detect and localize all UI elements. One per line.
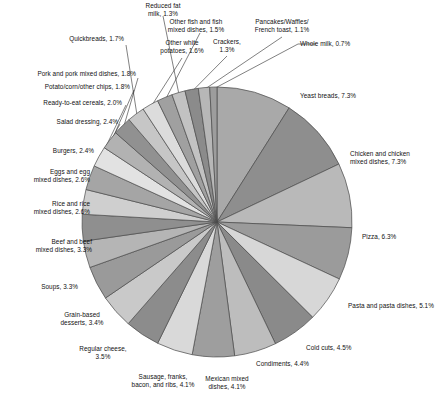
slice-label-eggs: Eggs and egg mixed dishes, 2.6% xyxy=(2,168,90,185)
pie-chart-svg xyxy=(0,0,436,394)
slice-label-chips: Potato/corn/other chips, 1.8% xyxy=(2,83,130,91)
slice-label-rte-cereals: Ready-to-eat cereals, 2.0% xyxy=(2,99,122,107)
pie-chart-figure: Reduced fat milk, 1.3% Other fish and fi… xyxy=(0,0,436,394)
slice-label-salad-dressing: Salad dressing, 2.4% xyxy=(2,118,118,126)
slice-label-rice: Rice and rice mixed dishes, 2.6% xyxy=(2,200,90,217)
slice-label-soups: Soups, 3.3% xyxy=(2,283,78,291)
slice-label-crackers: Crackers, 1.3% xyxy=(204,38,250,55)
slice-label-condiments: Condiments, 4.4% xyxy=(256,360,336,368)
slice-label-beef: Beef and beef mixed dishes, 3.3% xyxy=(2,238,92,255)
slice-label-yeast-breads: Yeast breads, 7.3% xyxy=(300,92,420,100)
slice-label-whole-milk: Whole milk, 0.7% xyxy=(300,40,400,48)
slice-label-pasta: Pasta and pasta dishes, 5.1% xyxy=(348,302,436,310)
slice-label-cold-cuts: Cold cuts, 4.5% xyxy=(306,344,390,352)
slice-label-grain-desserts: Grain-based desserts, 3.4% xyxy=(40,311,124,328)
slice-label-mexican: Mexican mixed dishes, 4.1% xyxy=(190,375,264,392)
slice-label-pork: Pork and pork mixed dishes, 1.8% xyxy=(2,70,136,78)
slice-label-pancakes: Pancakes/Waffles/ French toast, 1.1% xyxy=(236,18,328,35)
leader-line-quickbreads xyxy=(126,45,137,116)
slice-label-other-fish: Other fish and fish mixed dishes, 1.5% xyxy=(142,18,250,35)
slice-label-burgers: Burgers, 2.4% xyxy=(2,147,94,155)
slice-label-reduced-fat-milk: Reduced fat milk, 1.3% xyxy=(128,2,198,19)
slice-label-regular-cheese: Regular cheese, 3.5% xyxy=(62,345,144,362)
slice-label-quickbreads: Quickbreads, 1.7% xyxy=(28,35,124,43)
slice-label-pizza: Pizza, 6.3% xyxy=(362,233,432,241)
slice-label-chicken: Chicken and chicken mixed dishes, 7.3% xyxy=(350,150,436,167)
